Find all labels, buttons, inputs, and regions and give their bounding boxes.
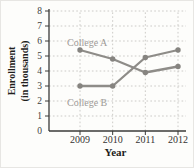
y-axis-title-line2: (in thousands) (19, 41, 31, 102)
y-tick-label-7: 7 (37, 21, 42, 31)
series-line-college-b (80, 50, 178, 86)
x-tick-label-2009: 2009 (70, 134, 90, 145)
y-tick-label-5: 5 (37, 51, 42, 61)
x-tick-label-2012: 2012 (168, 134, 188, 145)
y-tick-label-4: 4 (37, 66, 42, 76)
data-point-college-a-2010 (110, 56, 115, 61)
data-point-college-a-2011 (143, 70, 148, 75)
y-tick-label-8: 8 (37, 6, 42, 16)
y-tick-label-2: 2 (37, 96, 42, 106)
y-axis-title-line1: Enrollment (6, 46, 17, 95)
y-tick-label-0: 0 (37, 126, 42, 136)
x-tick-label-2010: 2010 (103, 134, 123, 145)
data-point-college-b-2010 (110, 83, 115, 88)
y-tick-label-1: 1 (37, 111, 42, 121)
data-point-college-b-2011 (143, 55, 148, 60)
enrollment-line-chart-figure: 0123456782009201020112012College AColleg… (0, 0, 194, 168)
y-tick-label-6: 6 (37, 36, 42, 46)
series-label-college-b: College B (67, 97, 108, 108)
data-point-college-b-2012 (175, 47, 180, 52)
y-tick-label-3: 3 (37, 81, 42, 91)
data-point-college-a-2009 (77, 47, 82, 52)
x-tick-label-2011: 2011 (136, 134, 156, 145)
enrollment-line-chart: 0123456782009201020112012College AColleg… (1, 1, 194, 168)
data-point-college-b-2009 (77, 83, 82, 88)
series-label-college-a: College A (67, 37, 108, 48)
x-axis-title: Year (105, 146, 127, 158)
data-point-college-a-2012 (175, 64, 180, 69)
